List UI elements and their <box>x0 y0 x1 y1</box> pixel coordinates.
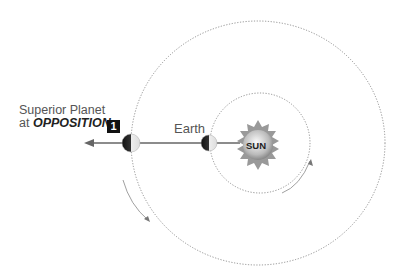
sun-label: SUN <box>246 139 266 152</box>
earth-label: Earth <box>174 122 205 135</box>
earth-icon <box>201 135 217 151</box>
outer-motion-arrow <box>123 180 148 220</box>
planet-label: Superior Planet at OPPOSITION <box>19 104 111 130</box>
arrow-left-icon <box>84 139 94 147</box>
opposition-label: OPPOSITION <box>33 116 111 130</box>
inner-motion-arrow <box>282 161 310 193</box>
superior-planet-icon <box>122 134 140 152</box>
orbit-diagram <box>0 0 406 278</box>
step-badge: 1 <box>107 120 120 133</box>
planet-label-prefix: at <box>19 116 33 130</box>
